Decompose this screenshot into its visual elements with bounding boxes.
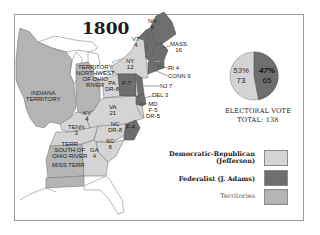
pie-fed-votes: 65 [257,76,277,85]
label-miss-terr: MISS TERR [52,162,85,168]
legend-label-dr: Democratic-Republican (Jefferson) [169,151,255,165]
region-miss-terr [46,176,84,188]
label-sc: SC8 [106,138,114,150]
pie-dr-votes: 73 [231,76,251,85]
label-vt: VT4 [132,36,140,48]
label-nh: NH6 [148,18,157,30]
label-tenn: TENN3 [68,124,84,136]
map-title: 1800 [82,18,129,38]
legend-label-federalist: Federalist (J. Adams) [179,176,255,183]
region-conn [148,62,158,74]
region-ri [158,60,164,70]
label-del: DEL 3 [152,92,168,98]
legend-swatch-federalist [264,170,288,186]
label-nc: NCDR-8 [108,121,122,133]
label-pa-f: F-7 [122,80,131,86]
label-nw-territory: TERRITORYNORTHWESTOF OHIORIVER [76,64,115,88]
electoral-vote-title: ELECTORAL VOTE TOTAL: 138 [222,107,294,125]
label-md: MDF-5DR-5 [146,101,160,119]
legend-label-territories: Territories [220,193,255,200]
legend-swatch-territories [264,189,288,205]
label-ri: RI 4 [168,65,179,71]
region-florida [84,176,124,214]
pie-fed-pct: 47% [257,66,277,75]
label-ny: NY12 [126,58,134,70]
label-nc-f: F-4 [126,124,135,130]
pie-dr-pct: 53% [231,66,251,75]
label-ga: GA4 [90,147,99,159]
gulf-coast [20,188,56,200]
legend-swatch-dr [264,150,288,166]
label-mass: MASS16 [170,41,187,53]
label-terr-south-ohio: TERRSOUTH OFOHIO RIVER [52,141,87,159]
label-ky: KY4 [83,110,91,122]
label-nj: NJ 7 [160,83,172,89]
label-indiana-territory: INDIANATERRITORY [26,90,60,102]
label-va: VA21 [109,104,117,116]
label-conn: CONN 9 [168,73,191,79]
